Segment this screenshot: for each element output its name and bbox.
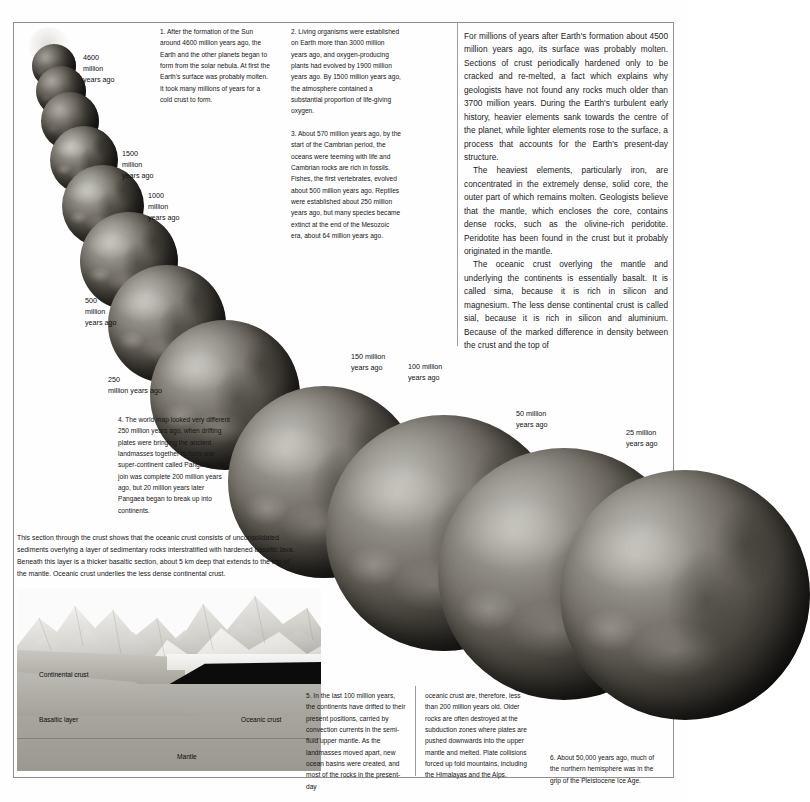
timeline-line3: years ago — [122, 170, 154, 181]
timeline-label-4600: 4600 million years ago — [83, 52, 115, 85]
timeline-line2: years ago — [626, 438, 658, 449]
note-1-number: 1. — [160, 28, 166, 35]
earth-sphere-25 — [560, 470, 810, 720]
timeline-line2: million years ago — [108, 385, 162, 396]
timeline-label-250: 250 million years ago — [108, 374, 162, 396]
timeline-label-1500: 1500 million years ago — [122, 148, 154, 181]
section-mantle-boundary-line — [17, 738, 321, 739]
timeline-label-25: 25 million years ago — [626, 427, 658, 449]
note-5: 5. In the last 100 million years, the co… — [306, 690, 406, 792]
timeline-line1: 1500 — [122, 148, 154, 159]
timeline-line1: 250 — [108, 374, 162, 385]
timeline-line1: 4600 — [83, 52, 115, 63]
note-3-text: About 570 million years ago, by the star… — [291, 130, 401, 239]
section-label-mantle: Mantle — [177, 753, 197, 760]
timeline-line1: 150 million — [351, 351, 385, 362]
note-1-text: After the formation of the Sun around 46… — [160, 28, 270, 103]
note-3-number: 3. — [291, 130, 297, 137]
section-label-continental-crust: Continental crust — [39, 671, 88, 678]
section-mantle-body — [17, 716, 321, 771]
timeline-line2: million — [83, 63, 115, 74]
section-label-oceanic-crust: Oceanic crust — [241, 716, 281, 723]
note-2: 2. Living organisms were established on … — [291, 26, 401, 117]
section-label-basaltic-layer: Basaltic layer — [39, 716, 78, 723]
timeline-label-500: 500 million years ago — [85, 295, 117, 328]
timeline-line3: years ago — [85, 317, 117, 328]
article-paragraph-1: For millions of years after Earth's form… — [464, 30, 668, 164]
timeline-line3: years ago — [83, 74, 115, 85]
timeline-line1: 500 — [85, 295, 117, 306]
article-paragraph-2: The heaviest elements, particularly iron… — [464, 164, 668, 258]
bottom-column-divider — [415, 686, 416, 776]
note-5-text: In the last 100 million years, the conti… — [306, 692, 405, 790]
note-4: 4. The world map looked very different 2… — [118, 414, 230, 516]
timeline-line2: years ago — [351, 362, 385, 373]
note-2-text: Living organisms were established on Ear… — [291, 28, 401, 114]
timeline-label-50: 50 million years ago — [516, 408, 548, 430]
note-4-text: The world map looked very different 250 … — [118, 416, 230, 514]
timeline-label-150: 150 million years ago — [351, 351, 385, 373]
timeline-line2: million — [85, 306, 117, 317]
article-body: For millions of years after Earth's form… — [464, 30, 668, 353]
timeline-label-1000: 1000 million years ago — [148, 190, 180, 223]
note-5-continued: oceanic crust are, therefore, less than … — [425, 690, 530, 781]
timeline-line2: years ago — [408, 372, 442, 383]
crust-cross-section-illustration: Continental crust Basaltic layer Oceanic… — [17, 588, 321, 771]
earth-shading — [560, 470, 810, 720]
timeline-line1: 100 million — [408, 361, 442, 372]
note-2-number: 2. — [291, 28, 297, 35]
crust-section-caption: This section through the crust shows tha… — [17, 532, 297, 580]
timeline-label-100: 100 million years ago — [408, 361, 442, 383]
note-1: 1. After the formation of the Sun around… — [160, 26, 270, 105]
timeline-line2: million — [122, 159, 154, 170]
column-divider — [457, 23, 458, 346]
note-6: 6. About 50,000 years ago, much of the n… — [550, 752, 662, 786]
note-4-number: 4. — [118, 416, 124, 423]
timeline-line1: 1000 — [148, 190, 180, 201]
timeline-line3: years ago — [148, 212, 180, 223]
note-6-number: 6. — [550, 754, 556, 761]
article-paragraph-3: The oceanic crust overlying the mantle a… — [464, 258, 668, 352]
note-3: 3. About 570 million years ago, by the s… — [291, 128, 401, 241]
timeline-line1: 50 million — [516, 408, 548, 419]
note-6-text: About 50,000 years ago, much of the nort… — [550, 754, 654, 784]
timeline-line2: years ago — [516, 419, 548, 430]
timeline-line2: million — [148, 201, 180, 212]
timeline-line1: 25 million — [626, 427, 658, 438]
note-5-number: 5. — [306, 692, 312, 699]
note-5-continued-text: oceanic crust are, therefore, less than … — [425, 692, 527, 778]
